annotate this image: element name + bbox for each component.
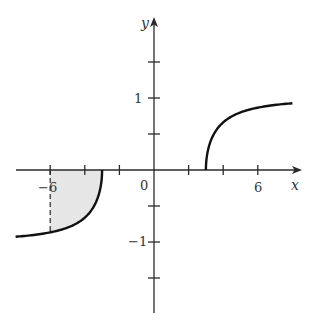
curve-right-branch <box>206 103 293 170</box>
x-axis-label: x <box>291 177 299 193</box>
x-tick-label-neg6: −6 <box>38 180 57 195</box>
origin-label: 0 <box>140 178 148 193</box>
y-axis-label: y <box>140 15 150 31</box>
y-tick-label-neg1: −1 <box>128 234 147 249</box>
y-tick-label-1: 1 <box>134 91 142 106</box>
function-graph: y x 0 −6 6 1 −1 <box>0 0 321 328</box>
x-tick-label-6: 6 <box>254 180 262 195</box>
